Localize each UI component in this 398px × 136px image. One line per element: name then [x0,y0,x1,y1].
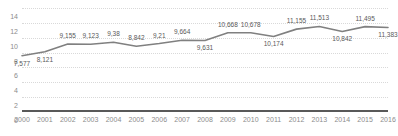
x-axis-tick: 2015 [357,116,373,123]
data-label: 9,664 [174,28,190,35]
x-axis-tick: 2009 [220,116,236,123]
x-axis-tick: 2005 [129,116,145,123]
data-label: 9,21 [153,32,166,39]
data-label: 9,38 [107,30,120,37]
x-axis-tick: 2012 [289,116,305,123]
data-label: 10,678 [241,21,261,28]
y-axis-tick: 6 [14,72,18,79]
x-axis-tick-labels: 2000200120022003200420052006200720082009… [22,114,388,130]
x-axis-tick: 2016 [380,116,396,123]
x-axis-tick: 2006 [151,116,167,123]
data-label: 10,174 [264,40,284,47]
data-label: 10,842 [332,35,352,42]
y-axis-tick: 10 [10,42,18,49]
y-axis-tick: 2 [14,102,18,109]
x-axis-tick: 2002 [60,116,76,123]
data-label: 9,123 [82,32,98,39]
data-label: 11,513 [310,14,329,21]
x-axis-tick: 2013 [312,116,328,123]
y-axis-tick: 12 [10,27,18,34]
series-line [22,8,388,112]
data-label: 11,383 [378,31,397,38]
plot-area: 7,5778,1219,1559,1239,388,8429,219,6649,… [22,8,388,112]
x-axis-baseline [22,110,388,112]
y-axis-tick: 14 [10,13,18,20]
y-axis-tick: 4 [14,87,18,94]
x-axis-tick: 2000 [14,116,30,123]
data-label: 10,668 [218,21,238,28]
x-axis-tick: 2008 [197,116,213,123]
data-label: 8,121 [37,56,53,63]
data-label: 9,155 [60,32,76,39]
data-label: 11,155 [287,17,306,24]
x-axis-tick: 2014 [334,116,350,123]
data-label: 11,495 [355,15,374,22]
x-axis-tick: 2003 [83,116,99,123]
data-label: 8,842 [128,34,144,41]
x-axis-tick: 2001 [37,116,53,123]
x-axis-tick: 2010 [243,116,259,123]
x-axis-tick: 2011 [266,116,281,123]
x-axis-tick: 2007 [174,116,190,123]
x-axis-tick: 2004 [106,116,122,123]
data-label: 9,631 [197,44,213,51]
data-label: 7,577 [14,60,30,67]
